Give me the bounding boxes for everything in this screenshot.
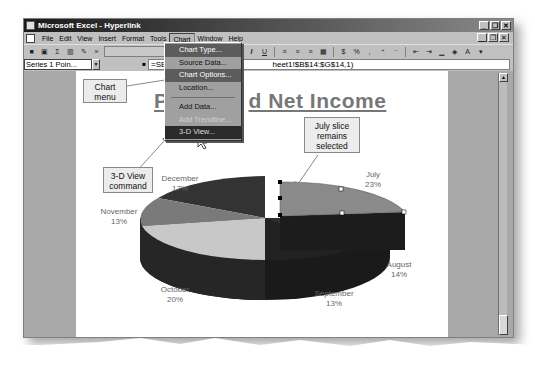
label-july: July23% [358,170,388,190]
menu-item-location[interactable]: Location... [165,82,241,95]
chart-menu-dropdown: Chart Type... Source Data... Chart Optio… [164,42,242,141]
pie-chart [0,0,535,372]
menu-item-add-trendline: Add Trendline... [165,114,241,127]
label-december: December17% [160,174,200,194]
menu-item-chart-options[interactable]: Chart Options... [165,69,241,82]
menu-item-chart-type[interactable]: Chart Type... [165,44,241,57]
callout-chart-menu: Chart menu [83,79,127,103]
menu-separator [171,97,235,98]
label-october: October20% [155,285,195,305]
menu-item-3d-view[interactable]: 3-D View... [165,126,241,139]
menu-item-source-data[interactable]: Source Data... [165,57,241,70]
label-august: August14% [382,260,416,280]
callout-july-selected: July slice remains selected [304,117,360,153]
callout-3d-view-command: 3-D View command [103,167,153,193]
label-november: November13% [98,207,140,227]
label-september: September13% [310,289,358,309]
menu-item-add-data[interactable]: Add Data... [165,101,241,114]
